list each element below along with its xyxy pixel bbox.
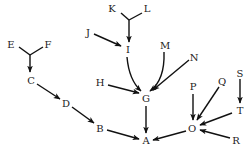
node-j: J: [85, 27, 90, 38]
edge-q-o: [197, 87, 219, 120]
edge-o-a: [153, 131, 186, 140]
node-labels: ABCDEFGHIJKLMNOPQRST: [7, 3, 243, 146]
node-c: C: [27, 75, 35, 86]
edge-k-i: [121, 13, 129, 20]
edge-l-i: [129, 13, 142, 20]
edge-j-i: [94, 34, 121, 46]
node-g: G: [142, 93, 150, 104]
node-d: D: [62, 98, 70, 109]
node-q: Q: [218, 76, 226, 87]
node-m: M: [160, 40, 170, 51]
node-r: R: [232, 135, 240, 146]
node-o: O: [188, 123, 196, 134]
tree-diagram: ABCDEFGHIJKLMNOPQRST: [0, 0, 248, 152]
node-s: S: [237, 68, 244, 79]
edge-d-b: [72, 107, 94, 123]
edges: [19, 13, 240, 140]
node-f: F: [45, 39, 52, 50]
node-p: P: [190, 81, 197, 92]
edge-m-g: [150, 52, 164, 91]
edge-n-g: [153, 60, 189, 90]
node-i: I: [126, 44, 130, 55]
edge-h-g: [108, 85, 139, 93]
node-b: B: [96, 123, 103, 134]
edge-t-o: [200, 113, 232, 125]
node-n: N: [190, 52, 199, 63]
edge-e-c: [19, 47, 30, 55]
node-a: A: [141, 135, 150, 146]
node-h: H: [96, 77, 105, 88]
node-l: L: [144, 3, 151, 14]
edge-c-d: [37, 84, 60, 99]
edge-r-o: [200, 130, 230, 138]
node-k: K: [108, 3, 116, 14]
edge-b-a: [107, 130, 139, 139]
node-e: E: [7, 39, 14, 50]
edge-f-c: [30, 47, 43, 55]
node-t: T: [237, 105, 244, 116]
edge-i-g: [127, 57, 141, 91]
